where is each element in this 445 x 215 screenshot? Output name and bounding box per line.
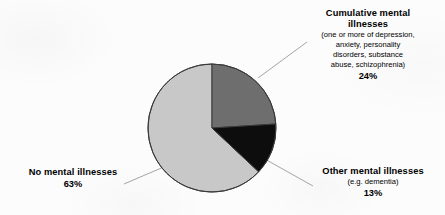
label-other-mental-illnesses: Other mental illnesses (e.g. dementia) 1…	[302, 166, 444, 199]
pie-slices	[148, 64, 276, 192]
label-cumulative-detail-line1: (one or more of depression,	[294, 31, 442, 40]
label-none-percent: 63%	[2, 179, 144, 190]
pie-slice-cumulative-mental-illnesses[interactable]	[212, 64, 276, 128]
label-cumulative-detail-line4: abuse, schizophrenia)	[294, 61, 442, 70]
label-other-detail-line1: (e.g. dementia)	[302, 178, 444, 187]
label-none-title-line1: No mental illnesses	[2, 167, 144, 178]
label-cumulative-percent: 24%	[294, 71, 442, 82]
label-cumulative-title-line2: illnesses	[294, 19, 442, 30]
pie-chart-figure: Cumulative mental illnesses (one or more…	[0, 0, 445, 215]
label-other-title-line1: Other mental illnesses	[302, 166, 444, 177]
label-cumulative-detail-line3: disorders, substance	[294, 51, 442, 60]
label-cumulative-mental-illnesses: Cumulative mental illnesses (one or more…	[294, 8, 442, 82]
label-no-mental-illnesses: No mental illnesses 63%	[2, 167, 144, 190]
label-other-percent: 13%	[302, 188, 444, 199]
label-cumulative-title-line1: Cumulative mental	[294, 8, 442, 19]
label-cumulative-detail-line2: anxiety, personality	[294, 41, 442, 50]
